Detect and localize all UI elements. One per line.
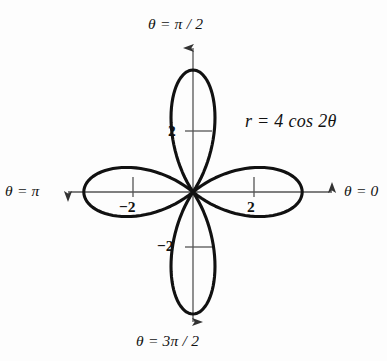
curve-equation-label: r = 4 cos 2θ bbox=[245, 112, 337, 130]
axis-label-theta-three-half-pi: θ = 3π / 2 bbox=[136, 333, 199, 349]
axis-label-theta-zero: θ = 0 bbox=[344, 183, 379, 199]
tick-label-x-positive: 2 bbox=[247, 199, 255, 215]
tick-label-y-positive: 2 bbox=[168, 123, 176, 139]
tick-label-x-negative: −2 bbox=[119, 199, 136, 215]
tick-label-y-negative: −2 bbox=[157, 238, 174, 254]
axis-label-theta-half-pi: θ = π / 2 bbox=[148, 16, 203, 32]
polar-rose-figure: θ = π / 2 θ = 0 θ = π θ = 3π / 2 r = 4 c… bbox=[0, 0, 387, 361]
polar-plot-canvas bbox=[0, 0, 387, 361]
axis-label-theta-pi: θ = π bbox=[5, 183, 40, 199]
